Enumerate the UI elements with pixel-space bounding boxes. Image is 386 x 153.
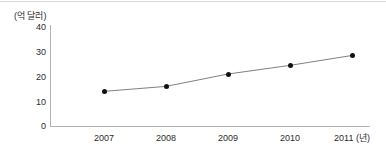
data-point-2011 bbox=[350, 53, 355, 58]
line-chart-figure: (억 달러) 40 30 20 10 0 2007 2008 2009 2010… bbox=[0, 0, 386, 153]
data-point-2009 bbox=[226, 72, 231, 77]
series-line-layer bbox=[0, 0, 386, 153]
data-point-2008 bbox=[164, 84, 169, 89]
data-point-2007 bbox=[102, 89, 107, 94]
data-point-2010 bbox=[288, 63, 293, 68]
